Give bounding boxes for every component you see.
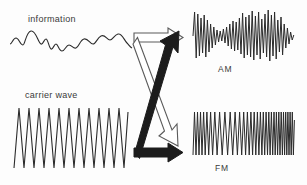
information-waveform: [10, 31, 132, 51]
modulation-diagram: information carrier wave AM FM: [0, 0, 307, 185]
am-waveform: [193, 10, 294, 61]
carrier-waveform: [14, 108, 128, 168]
fm-waveform: [193, 112, 294, 155]
diagram-canvas: [0, 0, 307, 185]
